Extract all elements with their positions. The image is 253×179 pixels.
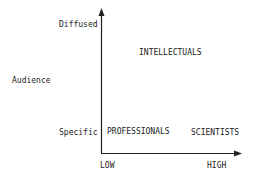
quadrant-label-intellectuals: INTELLECTUALS: [139, 48, 202, 57]
quadrant-label-professionals: PROFESSIONALS: [107, 127, 170, 136]
axes: [0, 0, 253, 179]
y-axis-title: Audience: [12, 76, 51, 85]
y-axis-top-label: Diffused: [59, 20, 98, 29]
y-axis-bottom-label: Specific: [59, 128, 98, 137]
y-axis-arrow-icon: [99, 8, 105, 16]
x-axis-low-label: LOW: [100, 161, 114, 170]
x-axis-high-label: HIGH: [207, 161, 226, 170]
x-axis-arrow-icon: [234, 151, 242, 157]
quadrant-label-scientists: SCIENTISTS: [191, 128, 239, 137]
